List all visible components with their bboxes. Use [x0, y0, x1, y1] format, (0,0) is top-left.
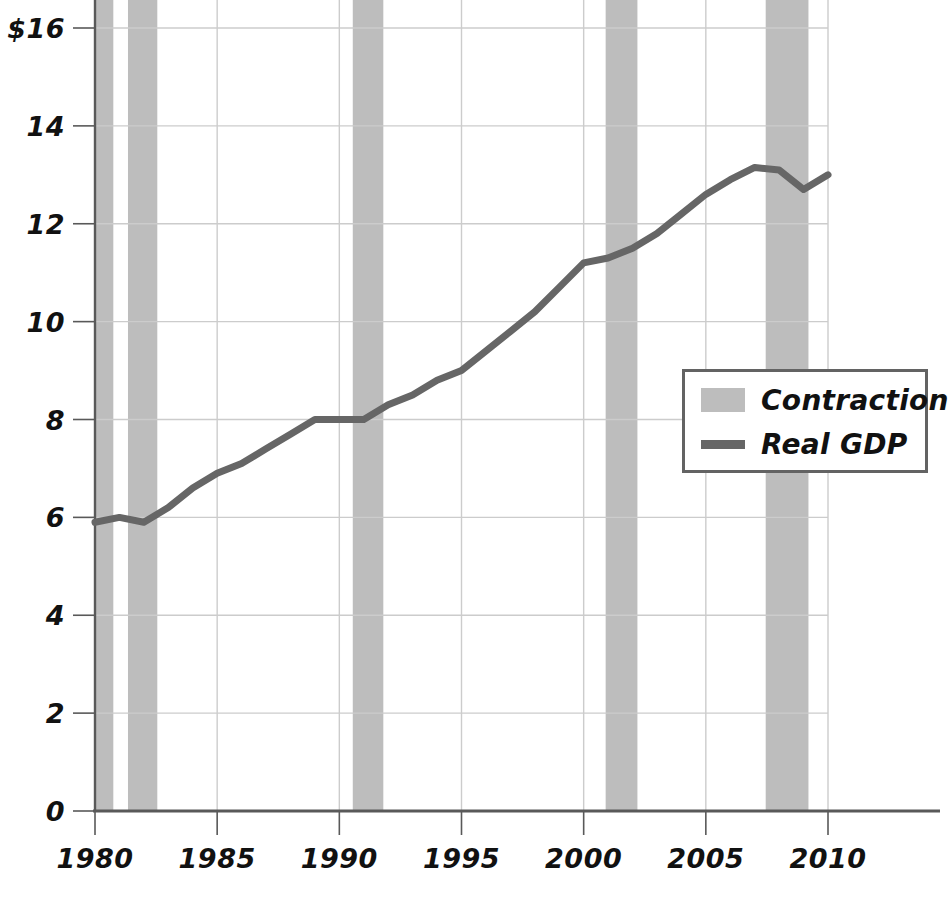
legend-line-swatch-icon — [701, 440, 745, 449]
y-axis-tick-label: 12 — [0, 208, 65, 239]
y-axis-tick-label: 8 — [0, 404, 65, 435]
y-axis-tick-label: 6 — [0, 502, 65, 533]
legend-item-contraction: Contraction — [685, 378, 925, 422]
y-axis-tick-label: 10 — [0, 306, 65, 337]
x-axis-tick-label: 1995 — [423, 843, 500, 874]
y-axis-tick-label: 14 — [0, 110, 65, 141]
x-axis-tick-label: 2010 — [789, 843, 866, 874]
contraction-band — [128, 0, 157, 811]
y-axis-tick-label: 4 — [0, 600, 65, 631]
x-axis-tick-label: 2000 — [545, 843, 622, 874]
legend-label-real-gdp: Real GDP — [761, 428, 908, 461]
contraction-band — [353, 0, 384, 811]
contraction-band — [606, 0, 638, 811]
contraction-band — [95, 0, 113, 811]
x-axis-tick-label: 1980 — [56, 843, 133, 874]
x-axis-tick-label: 1985 — [179, 843, 256, 874]
x-axis-tick-label: 2005 — [667, 843, 744, 874]
y-axis-tick-label: 2 — [0, 698, 65, 729]
legend-label-contraction: Contraction — [761, 384, 949, 417]
y-axis-tick-label: 0 — [0, 796, 65, 827]
legend-item-real-gdp: Real GDP — [685, 422, 925, 466]
y-axis-tick-label: $16 — [0, 13, 65, 44]
x-axis-tick-label: 1990 — [301, 843, 378, 874]
chart-legend: Contraction Real GDP — [682, 369, 928, 473]
legend-band-swatch-icon — [701, 388, 745, 412]
